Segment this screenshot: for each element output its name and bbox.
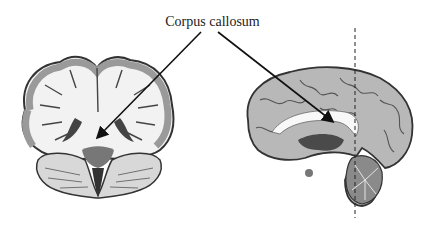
figure: Corpus callosum: [0, 0, 433, 235]
corpus-callosum-label: Corpus callosum: [0, 14, 433, 30]
sagittal-section: [247, 67, 412, 206]
coronal-section: [23, 57, 174, 198]
brain-diagram: [0, 0, 433, 235]
